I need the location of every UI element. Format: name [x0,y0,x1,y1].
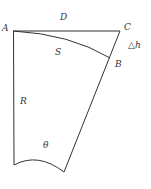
label-b: B [115,60,122,69]
label-a: A [2,24,9,33]
label-delta-h: △h [128,41,141,50]
line-c-bottom [64,31,120,172]
label-theta: θ [43,141,48,150]
arc-bottom [14,160,64,172]
label-d: D [60,13,67,22]
arc-s [13,31,110,58]
line-a-bottom [14,31,15,165]
label-c: C [124,23,131,32]
label-s: S [55,48,61,57]
label-r: R [20,97,27,106]
